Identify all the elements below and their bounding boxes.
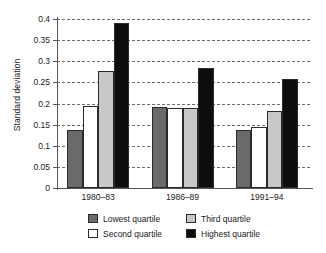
y-axis-tick-label: 0.35 <box>33 35 50 45</box>
gridline <box>57 104 310 105</box>
gridline <box>57 82 310 83</box>
gridline <box>57 19 310 20</box>
bar <box>198 68 214 188</box>
bar <box>152 107 168 188</box>
x-axis-category-label: 1991–94 <box>250 192 283 202</box>
y-axis-tick-label: 0.2 <box>38 99 50 109</box>
x-axis-category-label: 1986–89 <box>166 192 199 202</box>
chart-legend: Lowest quartileThird quartileSecond quar… <box>88 211 278 241</box>
y-axis-tick-label: 0.15 <box>33 120 50 130</box>
tick-mark <box>53 40 58 41</box>
tick-mark <box>53 188 58 189</box>
tick-mark <box>53 146 58 147</box>
bar-chart-figure: Standard deviation 00.050.10.150.20.250.… <box>0 0 326 253</box>
tick-mark <box>53 61 58 62</box>
y-axis-tick-label: 0.05 <box>33 162 50 172</box>
bar <box>167 108 183 188</box>
legend-entry: Highest quartile <box>186 229 278 239</box>
bar <box>98 71 114 188</box>
bar <box>282 79 298 188</box>
legend-label: Second quartile <box>103 229 162 239</box>
legend-swatch <box>88 229 98 238</box>
tick-mark <box>53 167 58 168</box>
y-axis-tick-label: 0.3 <box>38 56 50 66</box>
legend-swatch <box>186 229 196 238</box>
bar <box>267 111 283 188</box>
legend-label: Lowest quartile <box>103 214 160 224</box>
y-axis-tick-label: 0.1 <box>38 141 50 151</box>
plot-area: 00.050.10.150.20.250.30.350.4 <box>57 19 310 188</box>
y-axis-tick-label: 0 <box>45 183 50 193</box>
legend-label: Third quartile <box>201 214 251 224</box>
bar <box>114 23 130 188</box>
legend-label: Highest quartile <box>201 229 260 239</box>
y-axis-title: Standard deviation <box>8 0 26 190</box>
y-axis-title-label: Standard deviation <box>12 59 22 132</box>
y-axis-tick-label: 0.4 <box>38 14 50 24</box>
gridline <box>57 40 310 41</box>
legend-entry: Lowest quartile <box>88 214 186 224</box>
tick-mark <box>53 19 58 20</box>
legend-entry: Third quartile <box>186 214 278 224</box>
bar <box>251 127 267 188</box>
bar <box>83 106 99 188</box>
bar <box>67 130 83 188</box>
y-axis-tick-label: 0.25 <box>33 77 50 87</box>
legend-entry: Second quartile <box>88 229 186 239</box>
legend-swatch <box>88 214 98 223</box>
legend-swatch <box>186 214 196 223</box>
tick-mark <box>53 104 58 105</box>
bar <box>236 130 252 188</box>
tick-mark <box>53 125 58 126</box>
x-axis-line <box>57 188 313 189</box>
bar <box>183 108 199 188</box>
x-axis-category-label: 1980–83 <box>82 192 115 202</box>
gridline <box>57 61 310 62</box>
tick-mark <box>53 82 58 83</box>
